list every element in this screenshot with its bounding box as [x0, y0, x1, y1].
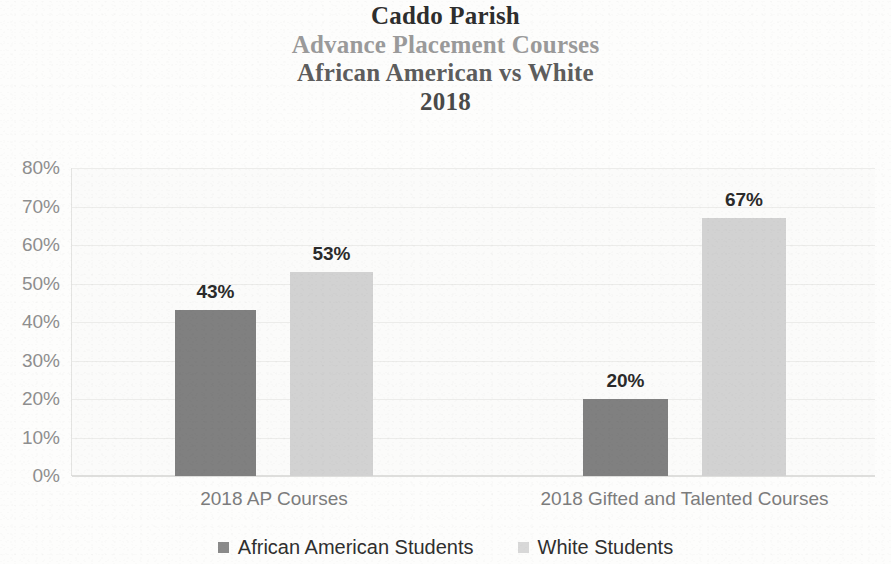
y-axis-tick-60: 60% — [0, 234, 60, 256]
category-label-gifted-talented: 2018 Gifted and Talented Courses — [540, 488, 828, 510]
chart-title-line-2: Advance Placement Courses — [0, 31, 891, 60]
bar-value-label-african-american-ap-courses: 43% — [196, 281, 234, 303]
bar-african-american-gifted-talented — [583, 399, 668, 476]
y-axis-tick-70: 70% — [0, 196, 60, 218]
legend-label: African American Students — [238, 536, 474, 559]
y-axis-tick-30: 30% — [0, 350, 60, 372]
chart-title: Caddo Parish Advance Placement Courses A… — [0, 2, 891, 116]
bar-value-label-white-ap-courses: 53% — [312, 243, 350, 265]
plot-area: 43%53%20%67% — [72, 168, 875, 476]
chart-title-line-3: African American vs White — [0, 59, 891, 88]
legend-swatch-icon-african-american — [218, 542, 229, 553]
y-axis-tick-50: 50% — [0, 273, 60, 295]
y-axis-line — [71, 168, 72, 476]
bar-african-american-ap-courses — [175, 310, 256, 476]
chart-legend: African American StudentsWhite Students — [0, 536, 891, 559]
chart-title-line-4: 2018 — [0, 88, 891, 117]
gridline-0 — [72, 476, 875, 477]
y-axis-tick-20: 20% — [0, 388, 60, 410]
legend-label: White Students — [538, 536, 674, 559]
chart-title-line-1: Caddo Parish — [0, 2, 891, 31]
gridline-80 — [72, 168, 875, 169]
category-label-ap-courses: 2018 AP Courses — [200, 488, 348, 510]
legend-item-white[interactable]: White Students — [518, 536, 674, 559]
bar-white-gifted-talented — [702, 218, 786, 476]
legend-item-african-american[interactable]: African American Students — [218, 536, 474, 559]
y-axis-tick-labels: 80%70%60%50%40%30%20%10%0% — [0, 0, 66, 564]
legend-swatch-icon-white — [518, 542, 529, 553]
y-axis-tick-0: 0% — [0, 465, 60, 487]
y-axis-tick-80: 80% — [0, 157, 60, 179]
bar-value-label-african-american-gifted-talented: 20% — [606, 370, 644, 392]
y-axis-tick-10: 10% — [0, 427, 60, 449]
bar-white-ap-courses — [290, 272, 373, 476]
y-axis-tick-40: 40% — [0, 311, 60, 333]
x-axis-category-labels: 2018 AP Courses2018 Gifted and Talented … — [72, 488, 875, 514]
bar-value-label-white-gifted-talented: 67% — [725, 189, 763, 211]
